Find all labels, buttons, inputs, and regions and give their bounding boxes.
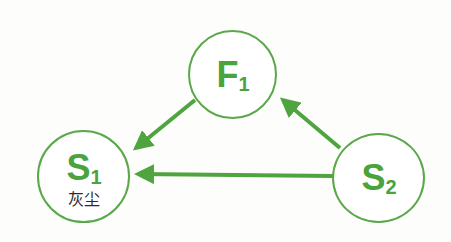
node-f1: F1	[188, 30, 277, 119]
substance-field-diagram: F1 S1 灰尘 S2	[0, 0, 451, 242]
node-f1-subscript: 1	[238, 73, 248, 95]
edge-f1-to-s1-arrow	[136, 100, 195, 148]
node-s2-label: S2	[361, 160, 395, 196]
node-s1: S1 灰尘	[37, 130, 130, 223]
node-s1-caption: 灰尘	[68, 192, 100, 208]
node-s1-subscript: 1	[90, 166, 100, 188]
edge-s2-to-s1-arrow	[138, 174, 333, 176]
node-s2-subscript: 2	[385, 176, 395, 198]
node-s2: S2	[332, 133, 425, 223]
node-f1-letter: F	[216, 54, 237, 95]
edge-s2-to-f1-arrow	[283, 100, 340, 148]
node-s2-letter: S	[361, 157, 384, 198]
node-s1-label: S1	[66, 150, 100, 186]
node-f1-label: F1	[216, 57, 248, 93]
node-s1-letter: S	[66, 147, 89, 188]
